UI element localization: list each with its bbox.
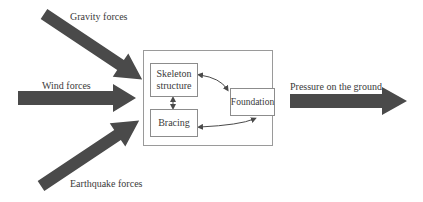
bracing-foundation-connector — [200, 119, 254, 127]
skeleton-label-line1: Skeleton — [157, 68, 192, 80]
bracing-block: Bracing — [150, 109, 198, 137]
skeleton-structure-block: Skeleton structure — [150, 63, 198, 97]
skeleton-label-line2: structure — [157, 80, 192, 92]
internal-connections — [0, 0, 423, 202]
foundation-label: Foundation — [231, 96, 274, 108]
skeleton-foundation-connector — [200, 75, 227, 89]
foundation-block: Foundation — [230, 88, 275, 116]
bracing-label: Bracing — [158, 117, 190, 129]
